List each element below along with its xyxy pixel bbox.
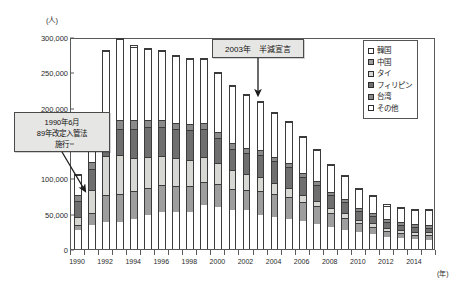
x-axis-tick-mark: [267, 250, 268, 255]
bar-1994: [130, 45, 138, 249]
x-axis-tick-mark: [238, 250, 239, 255]
bar-segment-タイ: [159, 156, 165, 185]
bar-segment-韓国: [412, 239, 418, 249]
y-axis-tick-mark: [70, 108, 74, 109]
x-axis-tick-mark: [224, 250, 225, 255]
y-axis-tick-mark: [70, 214, 74, 215]
y-axis-tick-mark: [70, 179, 74, 180]
bar-segment-フィリピン: [328, 195, 334, 208]
bar-segment-中国: [145, 188, 151, 215]
bar-2010: [355, 188, 363, 249]
bar-segment-フィリピン: [187, 130, 193, 160]
legend-item: フィリピン: [368, 80, 412, 92]
y-axis-tick-label: 50,000: [20, 210, 68, 219]
legend-item: 韓国: [368, 45, 412, 57]
bar-segment-フィリピン: [145, 127, 151, 157]
bar-segment-その他: [342, 176, 348, 199]
bar-segment-タイ: [201, 157, 207, 182]
bar-2000: [214, 72, 222, 249]
bar-segment-韓国: [159, 212, 165, 249]
bar-segment-フィリピン: [300, 177, 306, 195]
bar-segment-フィリピン: [89, 169, 95, 190]
bar-segment-その他: [173, 56, 179, 123]
bar-segment-中国: [159, 185, 165, 212]
bar-2008: [327, 164, 335, 249]
bar-2009: [341, 175, 349, 249]
bar-segment-韓国: [258, 215, 264, 249]
bar-segment-その他: [215, 73, 221, 133]
x-axis-tick-label: 2008: [322, 258, 338, 265]
bar-segment-その他: [258, 102, 264, 150]
bar-segment-フィリピン: [201, 129, 207, 157]
x-axis-tick-mark: [281, 250, 282, 255]
x-axis-tick-label: 2004: [266, 258, 282, 265]
x-axis-tick-mark: [70, 250, 71, 255]
bar-segment-タイ: [230, 170, 236, 188]
bar-segment-韓国: [145, 215, 151, 249]
x-axis-tick-mark: [140, 250, 141, 255]
bar-segment-韓国: [230, 210, 236, 249]
bar-2015: [425, 209, 433, 249]
bar-segment-タイ: [300, 195, 306, 202]
legend-item-label: 台湾: [377, 93, 391, 101]
x-axis-tick-mark: [337, 250, 338, 255]
bar-segment-中国: [187, 186, 193, 212]
x-axis-tick-label: 2000: [210, 258, 226, 265]
y-axis-unit-label: (人): [46, 14, 58, 25]
x-axis-tick-mark: [112, 250, 113, 255]
x-axis: 1990199219941996199820002002200420062008…: [70, 250, 435, 290]
bar-segment-中国: [244, 190, 250, 210]
bar-1990: [74, 174, 82, 249]
legend-item-label: その他: [377, 105, 398, 113]
bar-segment-フィリピン: [131, 129, 137, 159]
x-axis-tick-mark: [182, 250, 183, 255]
y-axis-tick-label: 250,000: [20, 69, 68, 78]
legend-item-label: フィリピン: [377, 82, 412, 90]
bar-2013: [397, 207, 405, 249]
bar-segment-韓国: [173, 212, 179, 249]
x-axis-tick-mark: [323, 250, 324, 255]
bar-2011: [369, 195, 377, 249]
annotation-2003-declaration: 2003年 半減宣言: [212, 39, 304, 58]
bar-segment-フィリピン: [286, 167, 292, 188]
bar-segment-タイ: [272, 183, 278, 194]
bar-segment-タイ: [89, 190, 95, 212]
x-axis-tick-mark: [435, 250, 436, 255]
bar-segment-台湾: [159, 120, 165, 127]
x-axis-tick-mark: [154, 250, 155, 255]
bar-1997: [172, 55, 180, 249]
bar-segment-中国: [103, 195, 109, 222]
bar-2014: [411, 209, 419, 249]
bar-segment-韓国: [328, 227, 334, 249]
bar-2002: [243, 94, 251, 249]
x-axis-tick-mark: [379, 250, 380, 255]
bar-segment-韓国: [215, 207, 221, 249]
y-axis-tick-label: 300,000: [20, 34, 68, 43]
bar-2001: [229, 85, 237, 249]
bar-segment-フィリピン: [215, 138, 221, 163]
bar-2007: [313, 149, 321, 249]
legend-item: 中国: [368, 57, 412, 69]
bar-segment-韓国: [244, 210, 250, 249]
x-axis-tick-mark: [309, 250, 310, 255]
bar-segment-タイ: [103, 156, 109, 195]
bar-segment-韓国: [300, 221, 306, 249]
x-axis-tick-mark: [126, 250, 127, 255]
philippines-swatch: [368, 82, 374, 88]
x-axis-tick-mark: [253, 250, 254, 255]
bar-segment-韓国: [131, 219, 137, 249]
bar-segment-その他: [145, 49, 151, 120]
annotation-line: 施行: [15, 139, 109, 150]
bar-segment-韓国: [201, 205, 207, 249]
legend: 韓国中国タイフィリピン台湾その他: [363, 40, 418, 119]
y-axis-tick-mark: [70, 73, 74, 74]
bar-1998: [186, 58, 194, 250]
bar-segment-中国: [342, 218, 348, 231]
thailand-swatch: [368, 71, 374, 77]
bar-segment-その他: [230, 86, 236, 143]
bar-segment-中国: [230, 189, 236, 210]
bar-segment-台湾: [131, 120, 137, 128]
x-axis-unit-label: (年): [437, 268, 449, 278]
y-axis-tick-mark: [70, 250, 74, 251]
bar-segment-その他: [398, 208, 404, 222]
